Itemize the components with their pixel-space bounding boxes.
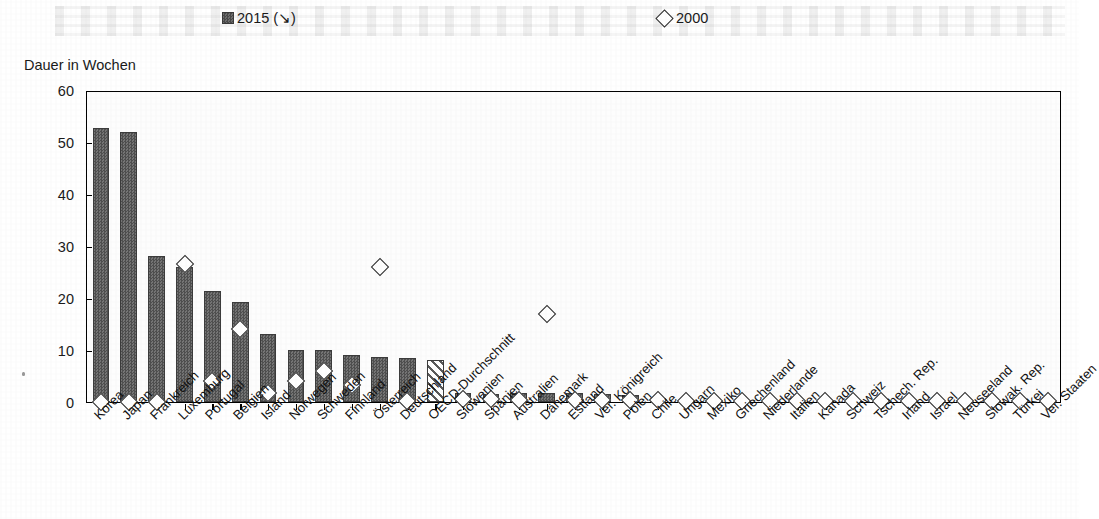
- x-label-chile: Chile: [648, 391, 680, 423]
- x-label-ver-staaten: Ver. Staaten: [1038, 361, 1099, 422]
- x-label-korea: Korea: [91, 387, 126, 422]
- x-label-japan: Japan: [119, 387, 155, 423]
- x-label-israel: Israel: [927, 389, 960, 422]
